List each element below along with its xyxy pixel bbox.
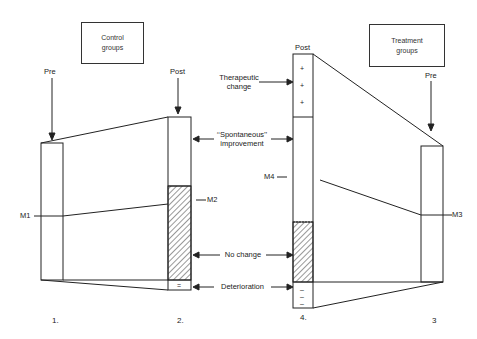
control-pre-arrow (49, 78, 55, 140)
bar-4-number: 4. (300, 313, 307, 322)
equals-symbol: = (177, 281, 181, 290)
treatment-groups-box: Treatment groups (369, 24, 445, 67)
plus-symbol-1: + (300, 64, 304, 73)
bar-2-number: 2. (177, 316, 184, 325)
spontaneous-line2: improvement (213, 139, 271, 148)
plus-symbol-3: + (300, 98, 304, 107)
control-groups-label-2: groups (101, 43, 124, 53)
m3-label: M3 (452, 210, 462, 219)
control-groups-box: Control groups (81, 22, 144, 64)
m4-label: M4 (264, 172, 274, 181)
therapeutic-change-line1: Therapeutic (218, 73, 260, 82)
spontaneous-improvement-label: ‘‘Spontaneous’’ improvement (213, 130, 271, 148)
bar-4-no-change-hatch (293, 222, 313, 282)
treatment-groups-label-2: groups (391, 46, 423, 56)
bar-3 (421, 146, 443, 282)
treatment-pre-label: Pre (425, 71, 437, 80)
minus-symbol-3: – (300, 299, 304, 308)
control-post-arrow (175, 78, 181, 114)
treatment-groups-label-1: Treatment (391, 36, 423, 46)
deterioration-label: Deterioration (214, 282, 271, 291)
bar-3-number: 3 (432, 316, 436, 325)
bar-1-number: 1. (52, 316, 59, 325)
bar-1 (41, 143, 63, 280)
therapeutic-change-line2: change (218, 82, 260, 91)
control-pre-label: Pre (44, 67, 56, 76)
no-change-label: No change (220, 250, 266, 259)
m1-label: M1 (20, 211, 30, 220)
plus-symbol-2: + (300, 81, 304, 90)
control-groups-label-1: Control (101, 33, 124, 43)
m2-label: M2 (207, 195, 217, 204)
control-post-label: Post (170, 67, 185, 76)
therapeutic-change-label: Therapeutic change (218, 73, 260, 91)
treatment-pre-arrow (428, 81, 434, 131)
spontaneous-line1: ‘‘Spontaneous’’ (213, 130, 271, 139)
treatment-post-label: Post (295, 43, 310, 52)
bar-2-no-change-hatch (168, 186, 191, 280)
